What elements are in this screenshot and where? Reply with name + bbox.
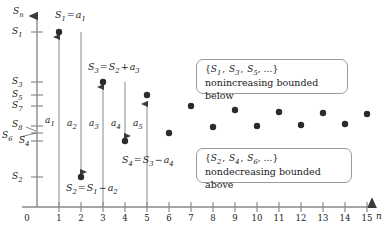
x-tick-label-4: 4 — [117, 214, 133, 223]
equation-s2: S2=S1−a2 — [66, 183, 118, 196]
x-tick-label-11: 11 — [271, 214, 287, 223]
x-tick-label-13: 13 — [315, 214, 331, 223]
data-point-s7 — [188, 103, 194, 109]
callout-even-set: {S2, S4, S6, …} — [205, 153, 343, 166]
equation-s1: S1=a1 — [55, 10, 86, 23]
y-tick-label-s4: S4 — [19, 136, 30, 148]
callout-odd-set: {S1, S3, S5, …} — [205, 64, 339, 77]
data-point-s11 — [276, 109, 282, 115]
x-tick-label-6: 6 — [161, 214, 177, 223]
data-point-s4 — [122, 138, 128, 144]
data-point-s10 — [254, 123, 260, 129]
y-axis-label: Sn — [13, 7, 24, 19]
x-tick-label-9: 9 — [227, 214, 243, 223]
alternating-series-partial-sums-figure: Sn S1 S3 S5 S7 S8 S6 S4 S2 0 1 2 3 4 5 6… — [0, 0, 388, 235]
data-point-s8 — [210, 124, 216, 130]
x-tick-label-0: 0 — [19, 214, 35, 223]
term-label-a1: a1 — [45, 116, 55, 128]
callout-odd-subsequence: {S1, S3, S5, …} nonincreasing bounded be… — [196, 59, 348, 94]
y-axis — [20, 16, 43, 207]
x-axis — [22, 202, 372, 212]
data-point-s14 — [342, 121, 348, 127]
x-tick-label-2: 2 — [73, 214, 89, 223]
data-point-s12 — [298, 122, 304, 128]
x-tick-label-5: 5 — [139, 214, 155, 223]
x-tick-label-8: 8 — [205, 214, 221, 223]
x-tick-label-10: 10 — [249, 214, 265, 223]
term-label-a2: a2 — [67, 119, 77, 131]
equation-s3: S3=S2+a3 — [88, 62, 140, 75]
x-tick-label-3: 3 — [95, 214, 111, 223]
x-tick-label-7: 7 — [183, 214, 199, 223]
leader-line-s8 — [26, 127, 36, 131]
term-label-a5: a5 — [133, 119, 143, 131]
data-point-s15 — [364, 111, 370, 117]
y-tick-label-s7: S7 — [12, 101, 23, 113]
x-tick-label-15: 15 — [359, 214, 375, 223]
data-point-s3 — [100, 79, 106, 85]
data-point-s6 — [166, 130, 172, 136]
data-point-s1 — [56, 29, 62, 35]
data-point-s9 — [232, 107, 238, 113]
callout-even-description: nondecreasing bounded above — [205, 166, 343, 191]
x-axis-label: n — [376, 212, 382, 221]
callout-even-subsequence: {S2, S4, S6, …} nondecreasing bounded ab… — [196, 148, 352, 183]
y-tick-label-s3: S3 — [12, 77, 23, 89]
y-tick-label-s2: S2 — [12, 172, 23, 184]
term-label-a4: a4 — [111, 119, 121, 131]
equation-s4: S4=S3−a4 — [122, 155, 174, 168]
x-tick-label-1: 1 — [51, 214, 67, 223]
y-tick-label-s8: S8 — [12, 120, 23, 132]
callout-odd-description: nonincreasing bounded below — [205, 77, 339, 102]
x-tick-label-12: 12 — [293, 214, 309, 223]
y-tick-label-s1: S1 — [12, 27, 23, 39]
data-point-s5 — [144, 92, 150, 98]
x-tick-label-14: 14 — [337, 214, 353, 223]
data-point-s13 — [320, 110, 326, 116]
term-label-a3: a3 — [89, 119, 99, 131]
figure-canvas — [0, 0, 388, 235]
y-tick-label-s6: S6 — [2, 131, 13, 143]
data-point-s2 — [78, 174, 84, 180]
